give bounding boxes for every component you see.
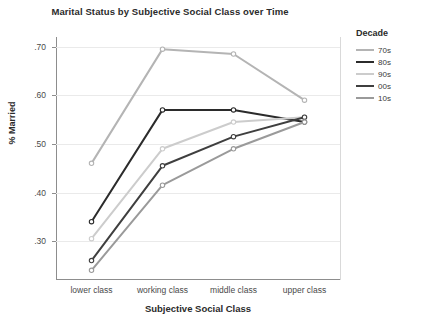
- legend-item-70s[interactable]: 70s: [356, 44, 426, 56]
- data-point-marker: [160, 108, 164, 112]
- data-point-marker: [160, 147, 164, 151]
- legend-item-80s[interactable]: 80s: [356, 56, 426, 68]
- data-point-marker: [89, 236, 93, 240]
- data-point-marker: [231, 147, 235, 151]
- legend-item-label: 10s: [378, 94, 391, 103]
- series-line: [92, 117, 305, 260]
- series-line: [92, 49, 305, 163]
- legend-entries: 70s80s90s00s10s: [356, 44, 426, 104]
- legend-line-swatch: [356, 61, 374, 63]
- data-point-marker: [302, 120, 306, 124]
- legend-item-label: 80s: [378, 58, 391, 67]
- legend-item-label: 70s: [378, 46, 391, 55]
- legend-item-label: 00s: [378, 82, 391, 91]
- legend: Decade 70s80s90s00s10s: [356, 28, 426, 104]
- data-point-marker: [160, 47, 164, 51]
- legend-line-swatch: [356, 97, 374, 99]
- data-point-marker: [89, 268, 93, 272]
- data-point-marker: [231, 52, 235, 56]
- data-point-marker: [89, 219, 93, 223]
- legend-line-swatch: [356, 85, 374, 87]
- data-point-marker: [160, 183, 164, 187]
- legend-line-swatch: [356, 73, 374, 75]
- legend-item-10s[interactable]: 10s: [356, 92, 426, 104]
- data-point-marker: [160, 164, 164, 168]
- data-point-marker: [89, 258, 93, 262]
- chart-container: Marital Status by Subjective Social Clas…: [0, 0, 427, 333]
- data-point-marker: [302, 115, 306, 119]
- legend-title: Decade: [356, 28, 426, 38]
- legend-line-swatch: [356, 49, 374, 51]
- legend-item-label: 90s: [378, 70, 391, 79]
- data-point-marker: [89, 161, 93, 165]
- data-point-marker: [231, 134, 235, 138]
- legend-item-00s[interactable]: 00s: [356, 80, 426, 92]
- series-line: [92, 122, 305, 270]
- series-line: [92, 117, 305, 239]
- data-point-marker: [302, 98, 306, 102]
- legend-item-90s[interactable]: 90s: [356, 68, 426, 80]
- data-point-marker: [231, 120, 235, 124]
- data-point-marker: [231, 108, 235, 112]
